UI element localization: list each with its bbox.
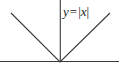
equation-lhs-variable: y (63, 4, 69, 19)
equation-operator: = (69, 4, 78, 19)
plot-canvas (0, 0, 119, 70)
equation-bar-right: | (87, 4, 90, 19)
absolute-value-figure: y=|x| (0, 0, 119, 70)
equation-label: y=|x| (63, 3, 89, 20)
